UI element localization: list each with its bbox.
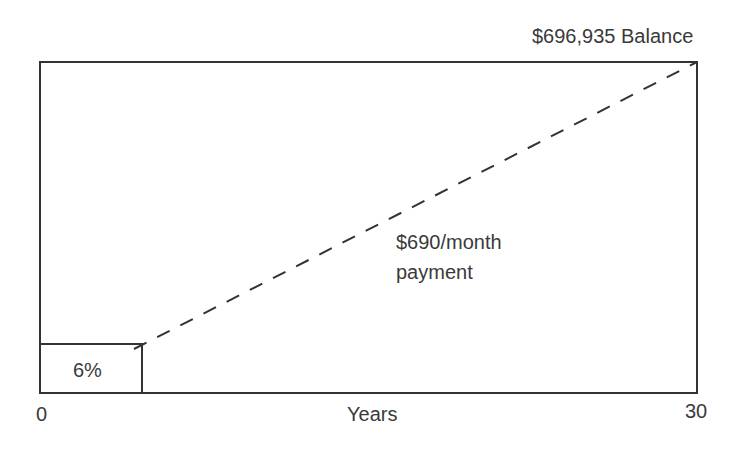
rate-label: 6%	[73, 360, 102, 380]
balance-label: $696,935 Balance	[532, 26, 693, 46]
payment-label-line2: payment	[396, 262, 473, 282]
x-tick-end: 30	[685, 401, 707, 421]
x-tick-start: 0	[36, 404, 47, 424]
payment-label-line1: $690/month	[396, 232, 502, 252]
x-axis-label: Years	[347, 404, 397, 424]
growth-dashed-line	[134, 62, 697, 349]
diagram-canvas	[0, 0, 738, 457]
